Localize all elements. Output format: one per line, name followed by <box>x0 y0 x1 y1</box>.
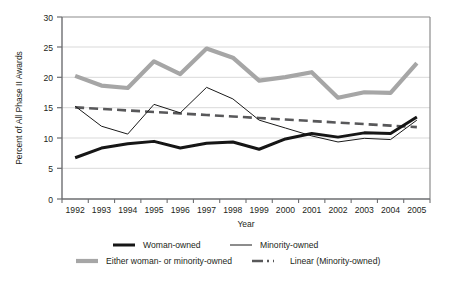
y-tick-label: 0 <box>48 195 53 205</box>
x-tick-label: 1996 <box>171 205 190 215</box>
x-tick-label: 2003 <box>355 205 374 215</box>
y-tick-label: 30 <box>43 13 53 23</box>
x-axis-title: Year <box>237 219 254 229</box>
x-tick-label: 2002 <box>328 205 347 215</box>
legend-label: Woman-owned <box>143 240 201 250</box>
chart-legend: Woman-ownedMinority-ownedEither woman- o… <box>76 240 380 266</box>
x-tick-label: 1997 <box>197 205 216 215</box>
legend-label: Linear (Minority-owned) <box>290 256 380 266</box>
y-tick-label: 25 <box>43 43 53 53</box>
chart-figure: 30 25 20 15 10 5 0 Percent of All Phase … <box>0 0 450 285</box>
legend-label: Minority-owned <box>260 240 318 250</box>
x-tick-label: 1994 <box>118 205 137 215</box>
x-tick-label: 1992 <box>66 205 85 215</box>
x-tick-label: 2001 <box>302 205 321 215</box>
x-tick-label: 1995 <box>144 205 163 215</box>
x-tick-label: 1999 <box>250 205 269 215</box>
x-axis-tick-labels: 1992199319941995199619971998199920002001… <box>66 205 427 215</box>
y-axis-title: Percent of All Phase II Awards <box>14 51 24 165</box>
y-tick-label: 20 <box>43 73 53 83</box>
x-tick-label: 1993 <box>92 205 111 215</box>
x-tick-label: 2004 <box>381 205 400 215</box>
y-axis-ticks <box>57 17 62 199</box>
line-chart: 30 25 20 15 10 5 0 Percent of All Phase … <box>0 0 450 285</box>
y-tick-label: 5 <box>48 164 53 174</box>
x-tick-label: 2005 <box>407 205 426 215</box>
y-tick-label: 15 <box>43 103 53 113</box>
y-axis-tick-labels: 30 25 20 15 10 5 0 <box>43 13 53 205</box>
x-tick-label: 2000 <box>276 205 295 215</box>
y-tick-label: 10 <box>43 134 53 144</box>
x-tick-label: 1998 <box>223 205 242 215</box>
legend-label: Either woman- or minority-owned <box>106 256 232 266</box>
